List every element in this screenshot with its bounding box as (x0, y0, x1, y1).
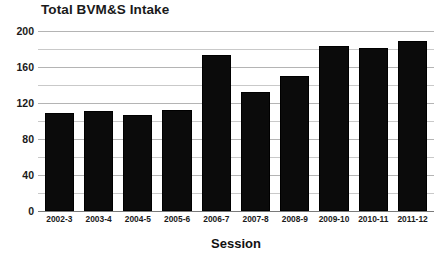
gridline (38, 211, 434, 212)
bars-layer (38, 31, 434, 211)
y-axis: 04080120160200 (0, 31, 34, 211)
x-axis-tick-label: 2006-7 (198, 214, 235, 230)
x-axis: 2002-32003-42004-52005-62006-72007-82008… (38, 214, 434, 230)
bar[interactable] (398, 41, 427, 211)
bar-slot (237, 31, 274, 211)
y-axis-tick-label: 40 (0, 169, 34, 181)
bar[interactable] (241, 92, 270, 211)
bar-chart: Total BVM&S Intake 04080120160200 2002-3… (0, 0, 438, 264)
bar[interactable] (84, 111, 113, 211)
y-axis-tick-label: 160 (0, 61, 34, 73)
y-axis-tick-label: 80 (0, 133, 34, 145)
y-axis-tick-label: 120 (0, 97, 34, 109)
x-axis-tick-label: 2004-5 (120, 214, 157, 230)
x-axis-tick-label: 2003-4 (80, 214, 117, 230)
bar[interactable] (319, 46, 348, 211)
bar-slot (198, 31, 235, 211)
bar[interactable] (280, 76, 309, 211)
x-axis-tick-label: 2008-9 (277, 214, 314, 230)
bar[interactable] (123, 115, 152, 211)
bar[interactable] (45, 113, 74, 211)
bar[interactable] (202, 55, 231, 211)
x-axis-tick-label: 2011-12 (394, 214, 431, 230)
y-axis-tick-label: 200 (0, 25, 34, 37)
plot-area (38, 31, 434, 211)
x-axis-tick-label: 2002-3 (41, 214, 78, 230)
x-axis-tick-label: 2010-11 (355, 214, 392, 230)
x-axis-tick-label: 2009-10 (316, 214, 353, 230)
bar-slot (120, 31, 157, 211)
bar[interactable] (359, 48, 388, 211)
x-axis-title: Session (38, 236, 434, 251)
chart-title: Total BVM&S Intake (41, 2, 169, 17)
bar-slot (41, 31, 78, 211)
bar-slot (394, 31, 431, 211)
bar-slot (80, 31, 117, 211)
bar-slot (316, 31, 353, 211)
bar-slot (355, 31, 392, 211)
x-axis-tick-label: 2005-6 (159, 214, 196, 230)
bar-slot (277, 31, 314, 211)
y-axis-tick-label: 0 (0, 205, 34, 217)
bar[interactable] (162, 110, 191, 211)
bar-slot (159, 31, 196, 211)
x-axis-tick-label: 2007-8 (237, 214, 274, 230)
